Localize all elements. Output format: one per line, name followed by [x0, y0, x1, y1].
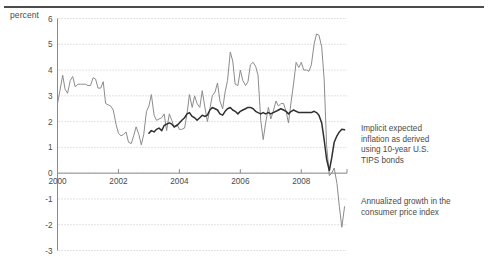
series-line-cpi: [58, 34, 345, 227]
series-line-tips: [149, 107, 345, 170]
y-tick-label-1: 1: [48, 143, 53, 152]
x-tick-label-2002: 2002: [109, 177, 128, 186]
x-tick-label-2004: 2004: [170, 177, 189, 186]
y-tick-label--2: -2: [45, 221, 53, 230]
y-tick-label--3: -3: [45, 247, 53, 256]
y-tick-label-4: 4: [48, 66, 53, 75]
series-lines-group: [58, 34, 345, 227]
y-tick-label-6: 6: [48, 15, 53, 24]
x-tick-labels-group: 20002002200420062008: [48, 177, 310, 186]
annotation-tips-series: Implicit expected inflation as derived u…: [361, 124, 488, 166]
gridlines-group: [59, 19, 348, 251]
annotation-cpi-series: Annualized growth in the consumer price …: [361, 197, 488, 218]
x-tick-label-2006: 2006: [231, 177, 250, 186]
chart-figure: percent 6543210-1-2-3 200020022004200620…: [0, 0, 488, 266]
axes-group: [58, 19, 348, 251]
y-tick-labels-group: 6543210-1-2-3: [45, 15, 53, 256]
y-tick-label-5: 5: [48, 40, 53, 49]
y-tick-label--1: -1: [45, 195, 53, 204]
x-tick-label-2008: 2008: [292, 177, 311, 186]
y-tick-label-2: 2: [48, 118, 53, 127]
y-tick-label-3: 3: [48, 92, 53, 101]
x-tick-label-2000: 2000: [48, 177, 67, 186]
